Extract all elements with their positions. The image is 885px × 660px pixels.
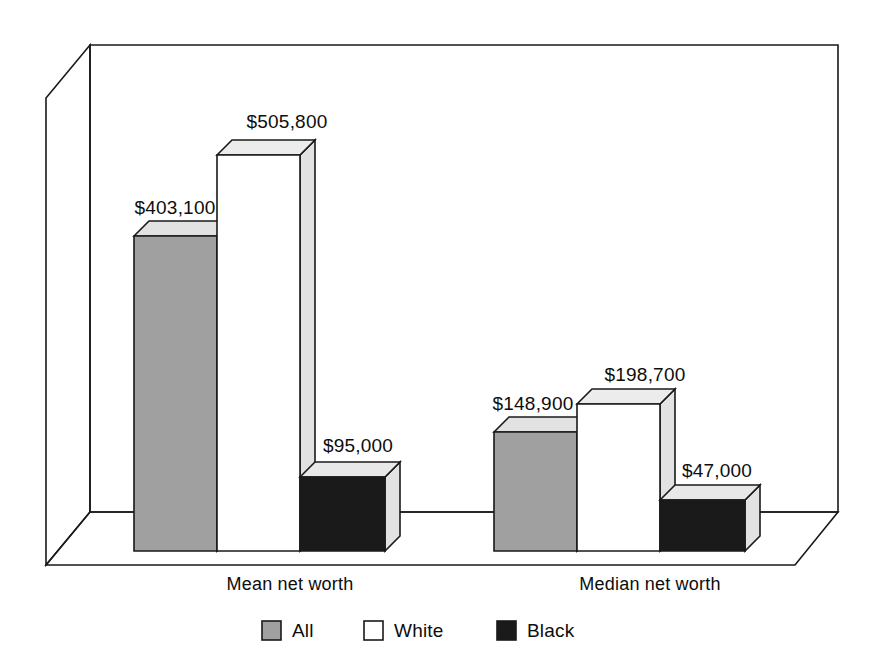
- value-label-median-all: $148,900: [493, 393, 574, 414]
- legend-swatch-white: [364, 621, 383, 640]
- bar-median-black-front: [660, 500, 745, 551]
- bar-median-black-top: [660, 485, 760, 500]
- bar-mean-black-top: [300, 462, 400, 477]
- legend-swatch-all: [262, 621, 281, 640]
- bar-median-all-front: [494, 432, 577, 551]
- bar-mean-white-front: [217, 155, 300, 551]
- value-label-median-black: $47,000: [682, 460, 752, 481]
- bar-mean-all-front: [134, 236, 217, 551]
- net-worth-3d-bar-chart: $403,100 $505,800 $95,000 $148,900 $198,…: [0, 0, 885, 660]
- bar-median-white-front: [577, 404, 660, 551]
- chart-container: $403,100 $505,800 $95,000 $148,900 $198,…: [0, 0, 885, 660]
- legend-item-all[interactable]: All: [262, 620, 314, 641]
- chart-legend: All White Black: [262, 620, 575, 641]
- bar-median-black[interactable]: [660, 485, 760, 551]
- value-label-mean-all: $403,100: [135, 197, 216, 218]
- legend-label-black: Black: [527, 620, 575, 641]
- bar-mean-black-front: [300, 477, 385, 551]
- legend-item-black[interactable]: Black: [497, 620, 575, 641]
- legend-label-white: White: [394, 620, 444, 641]
- legend-swatch-black: [497, 621, 516, 640]
- legend-item-white[interactable]: White: [364, 620, 444, 641]
- value-label-median-white: $198,700: [605, 364, 686, 385]
- category-label-median: Median net worth: [579, 574, 720, 594]
- bar-mean-black[interactable]: [300, 462, 400, 551]
- left-wall: [46, 45, 90, 565]
- legend-label-all: All: [292, 620, 314, 641]
- value-label-mean-white: $505,800: [247, 111, 328, 132]
- category-labels: Mean net worth Median net worth: [227, 574, 721, 594]
- bar-mean-white-top: [217, 140, 315, 155]
- bar-median-white-top: [577, 389, 675, 404]
- value-label-mean-black: $95,000: [323, 435, 393, 456]
- category-label-mean: Mean net worth: [227, 574, 354, 594]
